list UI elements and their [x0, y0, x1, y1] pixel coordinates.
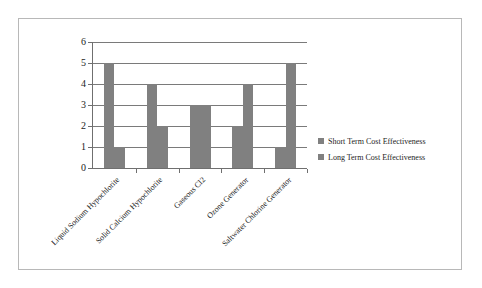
x-tick-mark — [264, 169, 265, 173]
x-tick-mark — [136, 169, 137, 173]
category-label: Solid Calcium Hypochlorite — [17, 175, 165, 288]
chart-legend: Short Term Cost EffectivenessLong Term C… — [318, 133, 458, 165]
bar-chart: 0123456 Liquid Sodium HypochloriteSolid … — [0, 0, 482, 288]
category-label: Ozone Generator — [102, 175, 250, 288]
category-label: Gaseous Cl2 — [59, 175, 207, 288]
category-label: Saltwater Chlorine Generator — [145, 175, 293, 288]
y-tick-mark — [88, 147, 93, 148]
y-tick-mark — [88, 126, 93, 127]
x-tick-mark — [179, 169, 180, 173]
x-tick-mark — [307, 169, 308, 173]
y-tick-mark — [88, 42, 93, 43]
legend-swatch-icon — [318, 154, 324, 160]
legend-item: Short Term Cost Effectiveness — [318, 133, 458, 149]
y-tick-mark — [88, 168, 93, 169]
legend-swatch-icon — [318, 138, 324, 144]
legend-label: Short Term Cost Effectiveness — [328, 137, 426, 146]
x-tick-mark — [221, 169, 222, 173]
legend-label: Long Term Cost Effectiveness — [328, 153, 425, 162]
y-tick-mark — [88, 84, 93, 85]
y-tick-mark — [88, 63, 93, 64]
legend-item: Long Term Cost Effectiveness — [318, 149, 458, 165]
y-tick-mark — [88, 105, 93, 106]
